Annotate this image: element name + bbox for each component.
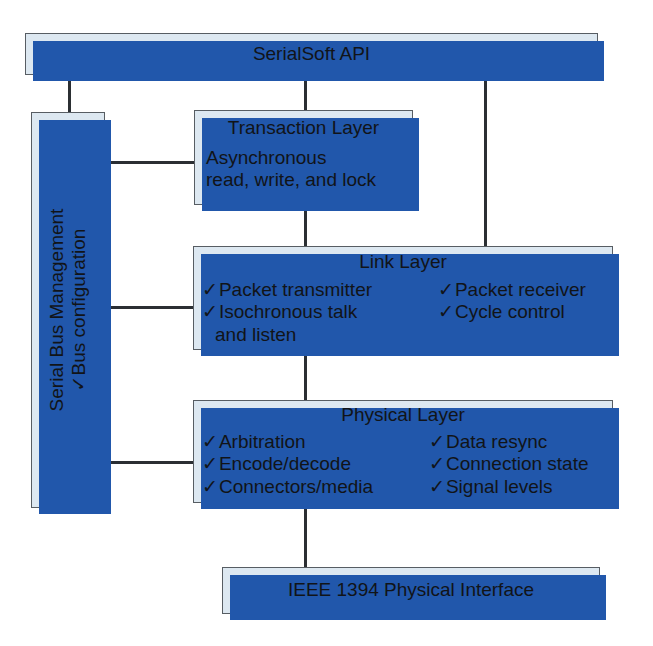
physical-layer-title: Physical Layer bbox=[194, 404, 612, 426]
physical-layer-right-column: ✓Data resync ✓Connection state ✓Signal l… bbox=[429, 431, 589, 498]
check-icon: ✓ bbox=[202, 431, 218, 452]
connector-api-to-link-layer bbox=[484, 74, 487, 246]
link-layer-right-column: ✓Packet receiver ✓Cycle control bbox=[438, 279, 586, 324]
link-layer-item: ✓Packet transmitter bbox=[202, 279, 372, 301]
physical-layer-item: ✓Connection state bbox=[429, 453, 589, 475]
serialsoft-api-label: SerialSoft API bbox=[26, 34, 597, 74]
connector-sbm-to-transaction-layer bbox=[104, 161, 196, 164]
box-link-layer[interactable]: Link Layer ✓Packet transmitter ✓Isochron… bbox=[193, 246, 613, 350]
box-transaction-layer[interactable]: Transaction Layer Asynchronous read, wri… bbox=[194, 110, 413, 205]
link-layer-item-label: Cycle control bbox=[455, 301, 565, 322]
link-layer-item: ✓Isochronous talk bbox=[202, 301, 372, 323]
check-icon: ✓ bbox=[438, 301, 454, 322]
connector-link-to-physical-layer bbox=[304, 350, 307, 402]
physical-layer-left-column: ✓Arbitration ✓Encode/decode ✓Connectors/… bbox=[202, 431, 373, 498]
physical-layer-item: ✓Connectors/media bbox=[202, 476, 373, 498]
ieee-1394-physical-interface-label: IEEE 1394 Physical Interface bbox=[223, 568, 599, 613]
transaction-layer-body: Asynchronous read, write, and lock bbox=[206, 147, 376, 192]
physical-layer-item: ✓Signal levels bbox=[429, 476, 589, 498]
check-icon: ✓ bbox=[202, 476, 218, 497]
check-icon: ✓ bbox=[68, 375, 89, 391]
link-layer-item-label: Packet transmitter bbox=[219, 279, 372, 300]
link-layer-item-label: Packet receiver bbox=[455, 279, 586, 300]
check-icon: ✓ bbox=[429, 476, 445, 497]
diagram-canvas: SerialSoft API Serial Bus Management ✓Bu… bbox=[0, 0, 653, 646]
transaction-layer-title: Transaction Layer bbox=[195, 117, 412, 139]
connector-sbm-to-link-layer bbox=[104, 306, 196, 309]
serial-bus-management-item-label: Bus configuration bbox=[68, 229, 89, 376]
physical-layer-item: ✓Data resync bbox=[429, 431, 589, 453]
serial-bus-management-item: ✓Bus configuration bbox=[68, 209, 90, 412]
link-layer-item-label: Isochronous talk bbox=[219, 301, 357, 322]
link-layer-item-continuation: and listen bbox=[202, 324, 372, 346]
link-layer-title: Link Layer bbox=[194, 251, 612, 273]
check-icon: ✓ bbox=[202, 301, 218, 322]
transaction-layer-line-1: Asynchronous bbox=[206, 147, 376, 169]
link-layer-item: ✓Cycle control bbox=[438, 301, 586, 323]
serial-bus-management-text: Serial Bus Management ✓Bus configuration bbox=[46, 209, 90, 412]
box-serial-bus-management[interactable]: Serial Bus Management ✓Bus configuration bbox=[31, 112, 105, 508]
box-ieee-1394-physical-interface[interactable]: IEEE 1394 Physical Interface bbox=[222, 567, 600, 614]
physical-layer-item-label: Connection state bbox=[446, 453, 589, 474]
transaction-layer-line-2: read, write, and lock bbox=[206, 169, 376, 191]
connector-sbm-to-physical-layer bbox=[104, 461, 196, 464]
physical-layer-item-label: Encode/decode bbox=[219, 453, 351, 474]
check-icon: ✓ bbox=[202, 453, 218, 474]
link-layer-item: ✓Packet receiver bbox=[438, 279, 586, 301]
link-layer-left-column: ✓Packet transmitter ✓Isochronous talk an… bbox=[202, 279, 372, 346]
check-icon: ✓ bbox=[438, 279, 454, 300]
physical-layer-item-label: Data resync bbox=[446, 431, 547, 452]
serial-bus-management-title: Serial Bus Management bbox=[46, 209, 68, 412]
connector-physical-to-interface bbox=[304, 503, 307, 569]
physical-layer-item-label: Connectors/media bbox=[219, 476, 373, 497]
physical-layer-item: ✓Arbitration bbox=[202, 431, 373, 453]
physical-layer-item-label: Arbitration bbox=[219, 431, 306, 452]
physical-layer-item-label: Signal levels bbox=[446, 476, 553, 497]
check-icon: ✓ bbox=[202, 279, 218, 300]
check-icon: ✓ bbox=[429, 431, 445, 452]
box-serialsoft-api[interactable]: SerialSoft API bbox=[25, 33, 598, 75]
box-physical-layer[interactable]: Physical Layer ✓Arbitration ✓Encode/deco… bbox=[193, 400, 613, 503]
check-icon: ✓ bbox=[429, 453, 445, 474]
physical-layer-item: ✓Encode/decode bbox=[202, 453, 373, 475]
